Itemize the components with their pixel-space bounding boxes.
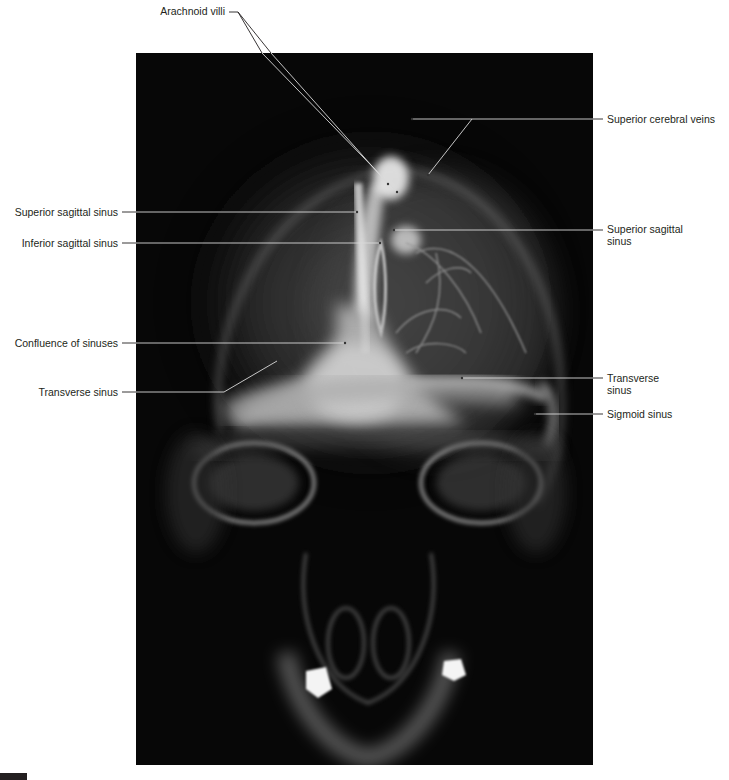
label-transverse-sinus-right: Transverse sinus bbox=[607, 372, 659, 396]
label-superior-sagittal-sinus-left: Superior sagittal sinus bbox=[0, 206, 118, 218]
label-line: sinus bbox=[607, 235, 683, 247]
label-superior-sagittal-sinus-right: Superior sagittal sinus bbox=[607, 223, 683, 247]
label-line: Transverse bbox=[607, 372, 659, 384]
label-sigmoid-sinus: Sigmoid sinus bbox=[607, 408, 672, 420]
label-line: sinus bbox=[607, 384, 659, 396]
label-superior-cerebral-veins: Superior cerebral veins bbox=[607, 113, 715, 125]
label-arachnoid-villi: Arachnoid villi bbox=[120, 5, 225, 17]
skull-xray-image bbox=[136, 53, 593, 765]
label-transverse-sinus-left: Transverse sinus bbox=[0, 386, 118, 398]
label-line: Superior sagittal bbox=[607, 223, 683, 235]
figure-caption-clipped bbox=[32, 771, 729, 780]
label-confluence-of-sinuses: Confluence of sinuses bbox=[0, 337, 118, 349]
anatomy-figure: Arachnoid villi Superior cerebral veins … bbox=[0, 0, 729, 780]
figure-number-bar bbox=[0, 773, 27, 780]
label-inferior-sagittal-sinus: Inferior sagittal sinus bbox=[0, 237, 118, 249]
